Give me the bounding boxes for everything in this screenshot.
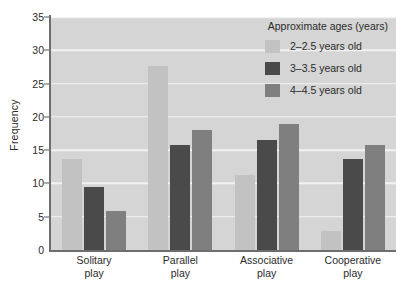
bar — [192, 130, 212, 250]
y-axis-tick-label: 10 — [32, 177, 44, 189]
y-axis-title: Frequency — [4, 0, 24, 250]
bar-group — [137, 17, 223, 250]
x-axis-tick-labels: SolitaryplayParallelplayAssociativeplayC… — [51, 254, 396, 288]
x-axis-tick-label-line: play — [51, 267, 137, 280]
y-axis-tick-label: 35 — [32, 11, 44, 23]
bar-group — [51, 17, 137, 250]
x-axis-tick-label: Solitaryplay — [51, 254, 137, 279]
x-axis-tick-label-line: play — [310, 267, 396, 280]
legend-item: 4–4.5 years old — [214, 81, 390, 99]
legend-item-label: 3–3.5 years old — [290, 62, 362, 74]
x-axis-tick-label-line: Cooperative — [310, 254, 396, 267]
x-axis-tick-label: Parallelplay — [137, 254, 223, 279]
legend-item-label: 4–4.5 years old — [290, 84, 362, 96]
x-axis-tick-label: Associativeplay — [224, 254, 310, 279]
y-axis-tick-label: 20 — [32, 111, 44, 123]
legend-swatch — [265, 62, 280, 75]
legend-swatch — [265, 40, 280, 53]
x-axis-tick-label: Cooperativeplay — [310, 254, 396, 279]
legend-title: Approximate ages (years) — [214, 20, 390, 32]
x-axis-tick-label-line: Parallel — [137, 254, 223, 267]
bar — [279, 124, 299, 250]
legend: Approximate ages (years) 2–2.5 years old… — [214, 20, 390, 103]
bar — [257, 140, 277, 250]
x-axis-tick-label-line: Associative — [224, 254, 310, 267]
x-axis-line — [49, 250, 396, 252]
y-axis-tick-label: 30 — [32, 44, 44, 56]
x-axis-tick-label-line: play — [137, 267, 223, 280]
bar — [321, 231, 341, 250]
x-axis-tick-label-line: Solitary — [51, 254, 137, 267]
bar — [106, 211, 126, 250]
legend-item: 2–2.5 years old — [214, 37, 390, 55]
bar — [365, 145, 385, 250]
bar — [148, 66, 168, 250]
y-axis-tick-label: 15 — [32, 144, 44, 156]
bar — [343, 159, 363, 250]
bar — [235, 175, 255, 250]
legend-swatch — [265, 84, 280, 97]
legend-rows: 2–2.5 years old3–3.5 years old4–4.5 year… — [214, 37, 390, 99]
bar-chart: Frequency 05101520253035 SolitaryplayPar… — [0, 0, 410, 291]
y-axis-title-text: Frequency — [8, 99, 20, 150]
x-axis-tick-label-line: play — [224, 267, 310, 280]
bar — [62, 159, 82, 250]
legend-item-label: 2–2.5 years old — [290, 40, 362, 52]
bar — [170, 145, 190, 250]
legend-item: 3–3.5 years old — [214, 59, 390, 77]
y-axis-tick-label: 25 — [32, 78, 44, 90]
y-axis-tick-labels: 05101520253035 — [22, 17, 44, 250]
bar — [84, 187, 104, 250]
